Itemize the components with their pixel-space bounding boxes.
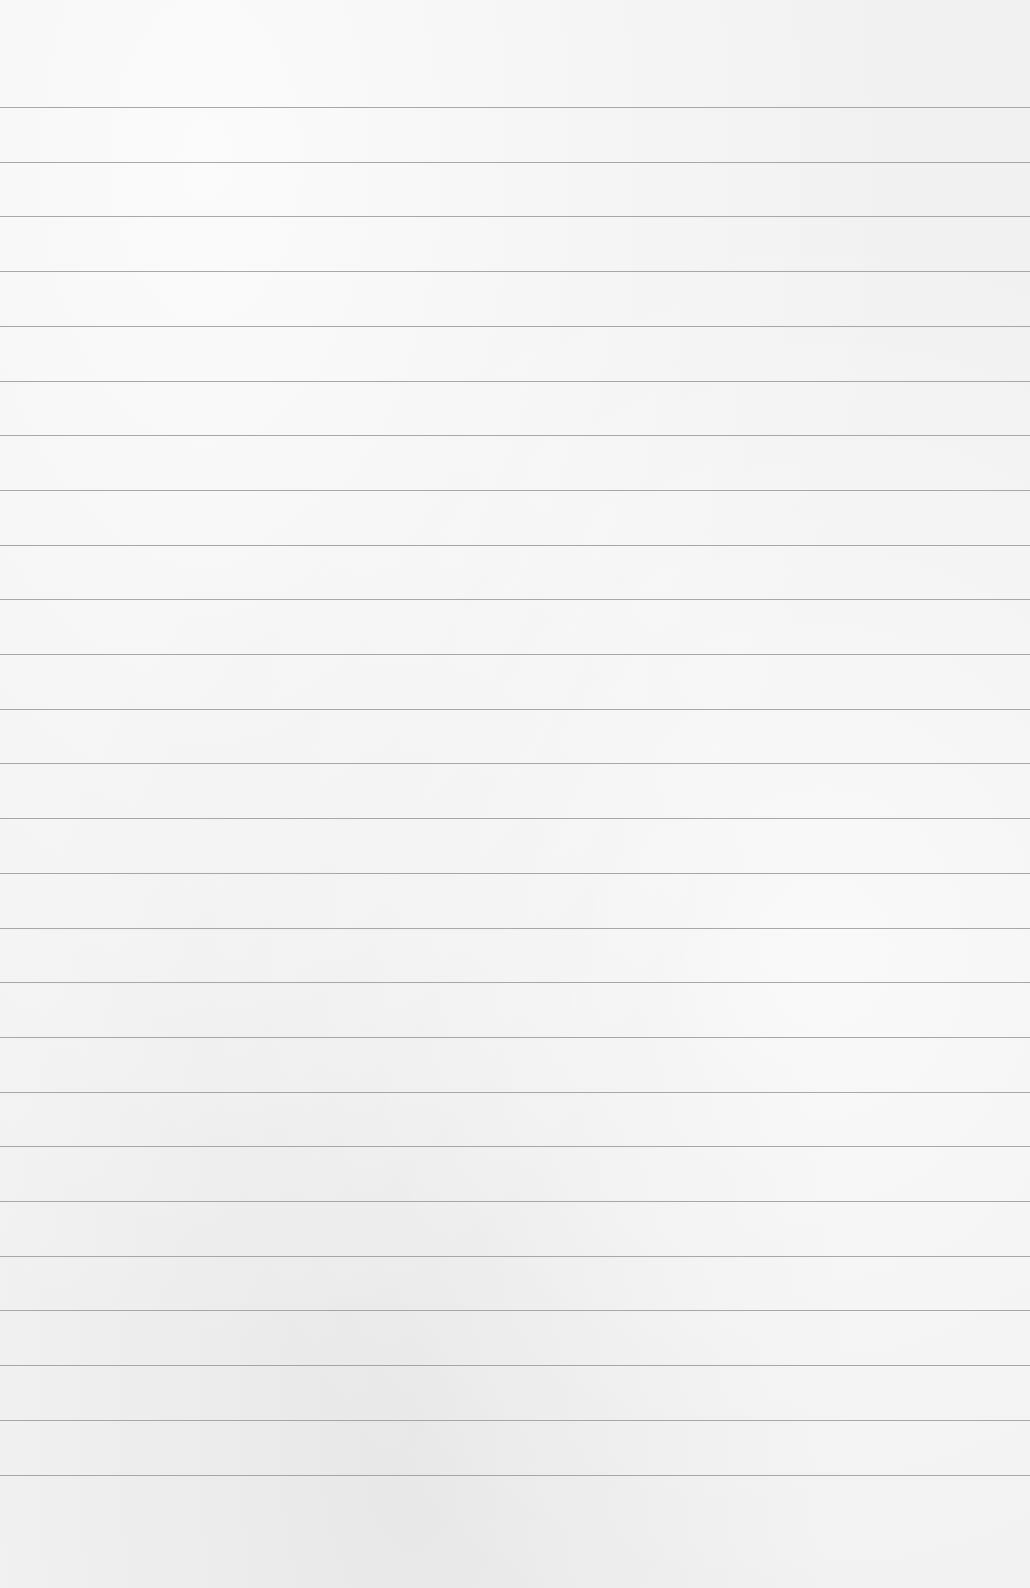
ruled-line (0, 381, 1030, 382)
ruled-line (0, 1365, 1030, 1366)
ruled-line (0, 1420, 1030, 1421)
ruled-line (0, 162, 1030, 163)
ruled-paper-sheet (0, 0, 1030, 1588)
ruled-line (0, 1146, 1030, 1147)
ruled-line (0, 326, 1030, 327)
ruled-line (0, 599, 1030, 600)
ruled-line (0, 1092, 1030, 1093)
ruled-line (0, 1201, 1030, 1202)
ruled-line (0, 107, 1030, 108)
ruled-line (0, 818, 1030, 819)
ruled-line (0, 654, 1030, 655)
ruled-line (0, 490, 1030, 491)
ruled-line (0, 928, 1030, 929)
ruled-line (0, 1256, 1030, 1257)
ruled-line (0, 1310, 1030, 1311)
ruled-line (0, 435, 1030, 436)
ruled-line (0, 1475, 1030, 1476)
ruled-line (0, 216, 1030, 217)
ruled-line (0, 982, 1030, 983)
ruled-line (0, 271, 1030, 272)
ruled-line (0, 763, 1030, 764)
ruled-line (0, 709, 1030, 710)
ruled-line (0, 545, 1030, 546)
ruled-line (0, 873, 1030, 874)
ruled-line (0, 1037, 1030, 1038)
